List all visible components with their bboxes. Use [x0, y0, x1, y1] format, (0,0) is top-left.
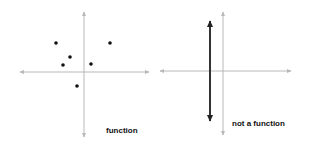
- right-panel: [160, 12, 291, 135]
- data-point: [68, 55, 72, 59]
- data-point: [89, 62, 93, 66]
- left-panel: [20, 12, 149, 137]
- not-a-function-label: not a function: [232, 119, 285, 128]
- function-label: function: [106, 126, 138, 135]
- data-point: [61, 63, 65, 67]
- data-point: [108, 41, 112, 45]
- scatter-points: [54, 41, 112, 88]
- data-point: [75, 84, 79, 88]
- data-point: [54, 41, 58, 45]
